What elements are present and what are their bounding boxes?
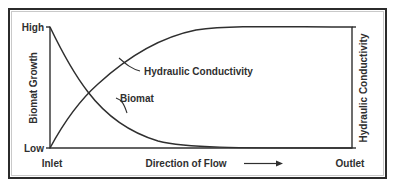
curve-hydraulic-conductivity xyxy=(50,27,352,148)
curve-biomat xyxy=(50,27,352,148)
y2-axis-title-hydraulic-conductivity: Hydraulic Conductivity xyxy=(358,33,369,142)
x-axis-title-direction-of-flow: Direction of Flow xyxy=(145,158,226,169)
right-arrow-icon xyxy=(244,161,283,167)
figure-root: Hydraulic Conductivity Biomat High Low B… xyxy=(0,0,395,187)
curve-label-biomat: Biomat xyxy=(120,93,155,104)
x-axis-label-outlet: Outlet xyxy=(336,158,366,169)
chart-canvas: Hydraulic Conductivity Biomat High Low B… xyxy=(0,0,395,187)
y-axis-label-low: Low xyxy=(24,143,44,154)
curve-label-hydraulic-conductivity: Hydraulic Conductivity xyxy=(144,66,253,77)
x-axis-label-inlet: Inlet xyxy=(42,158,63,169)
y-axis-label-high: High xyxy=(22,22,44,33)
y-axis-title-biomat-growth: Biomat Growth xyxy=(28,52,39,124)
